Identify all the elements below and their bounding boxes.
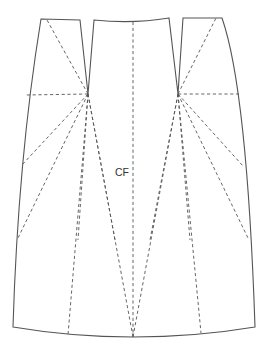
left-slash-lines — [18, 20, 133, 337]
mid-slash-lines — [78, 94, 190, 240]
right-slash-lines — [133, 18, 248, 337]
center-front-label: CF — [115, 166, 129, 178]
skirt-pattern-diagram: CF — [0, 0, 266, 346]
